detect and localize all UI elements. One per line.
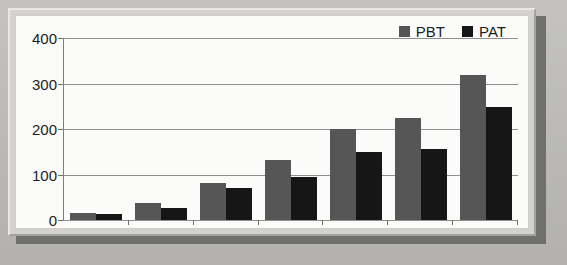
page-background: PBT PAT 0100200300400 2003-042004-052005… <box>0 0 567 265</box>
y-tick-label-200: 200 <box>32 121 57 138</box>
bar-pbt-2007-08[interactable] <box>330 129 356 220</box>
bar-pat-2004-05[interactable] <box>161 208 187 220</box>
plot-area: 0100200300400 2003-042004-052005-062006-… <box>63 39 518 221</box>
legend-swatch-pat <box>462 26 473 37</box>
x-tick-label-2006-07: 2006-07 <box>263 227 318 229</box>
bar-pat-2007-08[interactable] <box>356 152 382 220</box>
bar-pat-2003-04[interactable] <box>96 214 122 220</box>
gridline-0: 0 <box>63 220 518 221</box>
chart-frame: PBT PAT 0100200300400 2003-042004-052005… <box>8 8 536 236</box>
y-tick-mark-0 <box>58 220 63 221</box>
y-tick-mark-200 <box>58 129 63 130</box>
x-tick-label-2009-10: 2009-10 <box>458 227 513 229</box>
x-tick-label-2005-06: 2005-06 <box>199 227 254 229</box>
bar-group: 2008-09 <box>388 39 453 220</box>
y-tick-mark-400 <box>58 38 63 39</box>
bar-pat-2005-06[interactable] <box>226 188 252 220</box>
legend-swatch-pbt <box>399 26 410 37</box>
x-tick-label-2008-09: 2008-09 <box>393 227 448 229</box>
x-tick-label-2007-08: 2007-08 <box>328 227 383 229</box>
bar-group: 2007-08 <box>323 39 388 220</box>
x-tick-label-2004-05: 2004-05 <box>134 227 189 229</box>
bar-group: 2003-04 <box>64 39 129 220</box>
bar-pbt-2004-05[interactable] <box>135 203 161 220</box>
y-tick-mark-100 <box>58 175 63 176</box>
bar-pbt-2003-04[interactable] <box>70 213 96 220</box>
chart-plot-panel: PBT PAT 0100200300400 2003-042004-052005… <box>15 15 529 229</box>
y-tick-label-400: 400 <box>32 30 57 47</box>
bar-group: 2009-10 <box>453 39 518 220</box>
bar-group: 2004-05 <box>129 39 194 220</box>
bar-group: 2005-06 <box>194 39 259 220</box>
bar-groups: 2003-042004-052005-062006-072007-082008-… <box>64 39 518 220</box>
bar-pbt-2009-10[interactable] <box>460 75 486 220</box>
bar-pbt-2005-06[interactable] <box>200 183 226 220</box>
bar-pat-2009-10[interactable] <box>486 107 512 220</box>
y-tick-label-300: 300 <box>32 75 57 92</box>
bar-pat-2006-07[interactable] <box>291 177 317 220</box>
y-tick-label-100: 100 <box>32 166 57 183</box>
y-tick-label-0: 0 <box>49 212 57 229</box>
bar-pat-2008-09[interactable] <box>421 149 447 220</box>
y-tick-mark-300 <box>58 84 63 85</box>
x-tick-label-2003-04: 2003-04 <box>69 227 124 229</box>
bar-group: 2006-07 <box>259 39 324 220</box>
bar-pbt-2008-09[interactable] <box>395 118 421 220</box>
bar-pbt-2006-07[interactable] <box>265 160 291 220</box>
